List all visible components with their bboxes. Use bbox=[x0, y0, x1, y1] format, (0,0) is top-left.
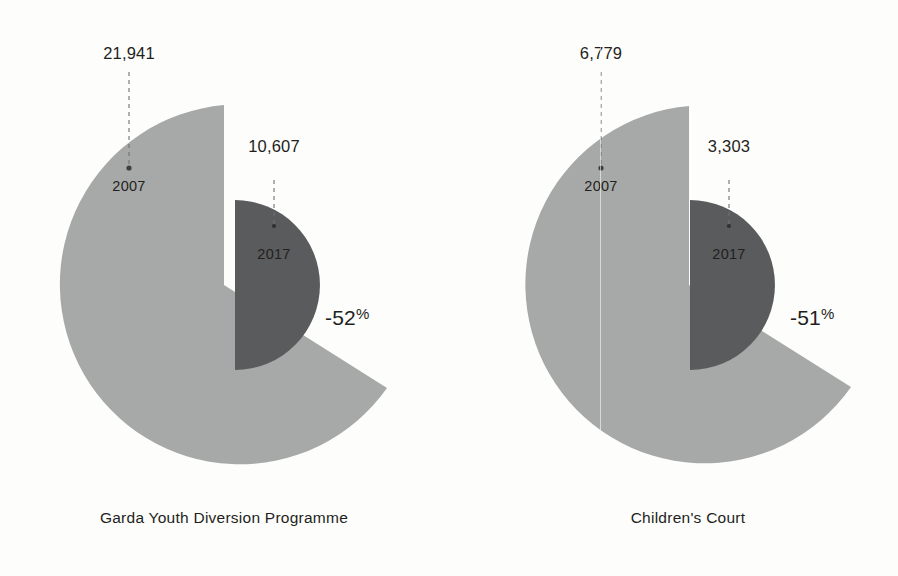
year-label-2007: 2007 bbox=[112, 178, 145, 194]
year-label-2017: 2017 bbox=[712, 246, 745, 262]
panel-1-graphic bbox=[449, 0, 898, 576]
disc-2007-right bbox=[525, 106, 851, 463]
value-label-2017: 3,303 bbox=[708, 137, 750, 156]
percent-sign: % bbox=[356, 305, 369, 322]
percent-change-number: -52 bbox=[325, 306, 356, 329]
leader-dot-2017-left bbox=[272, 224, 276, 228]
panel-caption: Children's Court bbox=[631, 509, 746, 527]
value-label-2007: 6,779 bbox=[580, 44, 622, 63]
percent-change-number: -51 bbox=[790, 306, 821, 329]
page-seam-line bbox=[600, 0, 601, 576]
chart-panel-garda-youth-diversion-programme: 21,941 2007 10,607 2017 -52% Garda Youth… bbox=[0, 0, 449, 576]
chart-panel-childrens-court: 6,779 2007 3,303 2017 -51% Children's Co… bbox=[449, 0, 898, 576]
value-label-2007: 21,941 bbox=[103, 44, 155, 63]
percent-change-label: -51% bbox=[790, 305, 834, 330]
year-label-2017: 2017 bbox=[257, 246, 290, 262]
value-label-2017: 10,607 bbox=[248, 137, 300, 156]
panel-0-graphic bbox=[0, 0, 449, 576]
year-label-2007: 2007 bbox=[584, 178, 617, 194]
figure-canvas: 21,941 2007 10,607 2017 -52% Garda Youth… bbox=[0, 0, 898, 576]
leader-dot-2017-right bbox=[727, 224, 731, 228]
percent-change-label: -52% bbox=[325, 305, 369, 330]
leader-dot-2007-left bbox=[126, 165, 131, 170]
percent-sign: % bbox=[821, 305, 834, 322]
panel-caption: Garda Youth Diversion Programme bbox=[100, 509, 348, 527]
disc-2007-left bbox=[60, 105, 387, 464]
